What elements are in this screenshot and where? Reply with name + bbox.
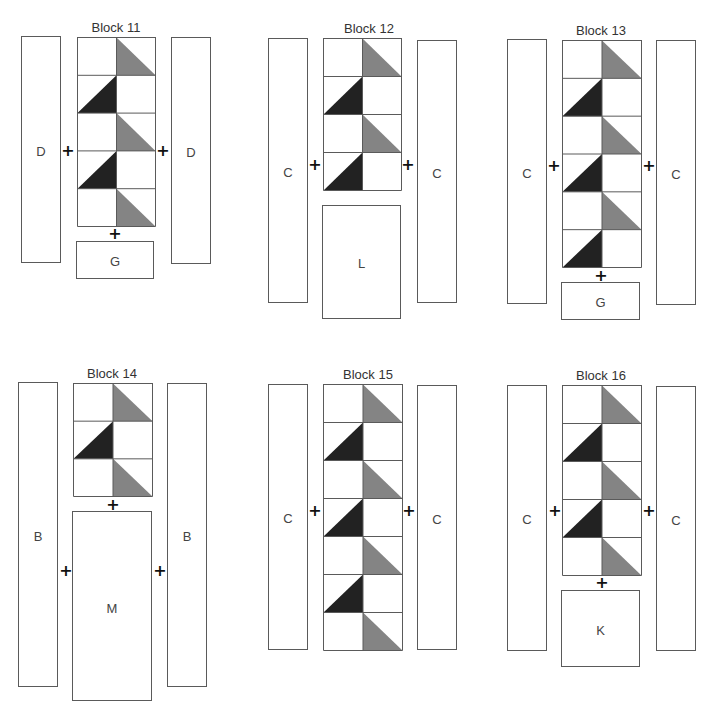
dark-triangle (563, 78, 603, 116)
right-strip-label: C (657, 512, 695, 527)
plus-icon: + (106, 497, 119, 513)
bottom-piece: L (322, 205, 401, 319)
left-strip-label: C (269, 164, 307, 179)
right-strip-label: D (172, 144, 210, 159)
plus-icon: + (61, 143, 74, 159)
gray-triangle (363, 39, 402, 77)
gray-triangle (602, 538, 642, 576)
flying-geese-grid (562, 40, 642, 268)
right-strip: D (171, 37, 211, 264)
plus-icon: + (156, 143, 169, 159)
right-strip-label: C (418, 165, 456, 180)
right-strip: C (417, 40, 457, 303)
block-title: Block 16 (576, 368, 626, 383)
left-strip-label: D (22, 143, 60, 158)
left-strip-label: C (269, 511, 307, 526)
plus-icon: + (595, 575, 608, 591)
bottom-piece: K (561, 590, 640, 667)
left-strip-label: B (19, 529, 57, 544)
gray-triangle (363, 537, 403, 575)
bottom-piece-label: K (562, 622, 639, 637)
bottom-piece-label: G (77, 254, 153, 269)
plus-icon: + (308, 157, 321, 173)
left-strip: C (268, 384, 308, 650)
bottom-piece-label: G (562, 295, 639, 310)
plus-icon: + (401, 157, 414, 173)
gray-triangle (602, 192, 642, 230)
gray-triangle (117, 189, 156, 227)
gray-triangle (113, 384, 153, 422)
dark-triangle (324, 499, 364, 537)
right-strip: C (656, 386, 696, 651)
dark-triangle (563, 500, 603, 538)
right-strip-label: C (418, 511, 456, 526)
plus-icon: + (108, 226, 121, 242)
dark-triangle (324, 153, 363, 191)
plus-icon: + (402, 503, 415, 519)
dark-triangle (563, 424, 603, 462)
plus-icon: + (642, 158, 655, 174)
plus-icon: + (59, 563, 72, 579)
left-strip: D (21, 36, 61, 263)
dark-triangle (563, 154, 603, 192)
dark-triangle (74, 421, 114, 459)
right-strip-label: C (657, 166, 695, 181)
gray-triangle (363, 385, 403, 423)
gray-triangle (602, 41, 642, 79)
block-title: Block 15 (343, 367, 393, 382)
gray-triangle (363, 461, 403, 499)
bottom-piece-label: L (323, 256, 400, 271)
left-strip: C (507, 385, 547, 651)
plus-icon: + (308, 503, 321, 519)
left-strip-label: C (508, 165, 546, 180)
gray-triangle (113, 459, 153, 497)
right-strip-label: B (168, 529, 206, 544)
dark-triangle (324, 77, 363, 115)
bottom-piece: M (72, 511, 152, 701)
flying-geese-grid (323, 384, 403, 651)
plus-icon: + (642, 503, 655, 519)
right-strip: C (417, 385, 457, 650)
left-strip: C (507, 39, 547, 304)
dark-triangle (78, 151, 117, 189)
plus-icon: + (548, 503, 561, 519)
flying-geese-grid (73, 383, 153, 497)
flying-geese-grid (323, 38, 402, 191)
bottom-piece-label: M (73, 601, 151, 616)
dark-triangle (563, 230, 603, 268)
block-title: Block 14 (87, 366, 137, 381)
gray-triangle (117, 113, 156, 151)
bottom-piece: G (76, 241, 154, 279)
gray-triangle (602, 386, 642, 424)
left-strip-label: C (508, 512, 546, 527)
left-strip: C (268, 38, 308, 303)
plus-icon: + (594, 268, 607, 284)
right-strip: C (656, 40, 696, 305)
dark-triangle (78, 75, 117, 113)
block-title: Block 13 (576, 23, 626, 38)
left-strip: B (18, 382, 58, 687)
block-title: Block 11 (92, 20, 141, 35)
plus-icon: + (153, 563, 166, 579)
dark-triangle (324, 423, 364, 461)
block-title: Block 12 (344, 21, 394, 36)
gray-triangle (363, 613, 403, 651)
bottom-piece: G (561, 282, 640, 320)
gray-triangle (363, 115, 402, 153)
right-strip: B (167, 383, 207, 687)
flying-geese-grid (562, 385, 642, 576)
dark-triangle (324, 575, 364, 613)
gray-triangle (117, 38, 156, 76)
gray-triangle (602, 462, 642, 500)
gray-triangle (602, 116, 642, 154)
flying-geese-grid (77, 37, 156, 227)
plus-icon: + (547, 158, 560, 174)
